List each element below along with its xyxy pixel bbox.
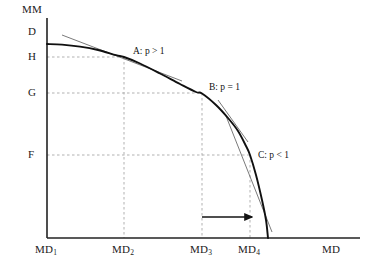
- x-tick-subscript: 3: [208, 248, 212, 257]
- x-tick-base: MD: [238, 243, 256, 255]
- point-label-b: B: p = 1: [209, 82, 240, 92]
- ppf-diagram: MM MD DHGF MD1MD2MD3MD4 A: p > 1B: p = 1…: [0, 0, 370, 270]
- x-tick-base: MD: [35, 243, 53, 255]
- x-tick-base: MD: [190, 243, 208, 255]
- y-tick-label-f: F: [28, 148, 34, 160]
- plot-canvas: [0, 0, 370, 270]
- x-tick-label-md4: MD4: [238, 243, 260, 255]
- transformation-curve: [47, 44, 268, 238]
- x-tick-subscript: 4: [256, 248, 260, 257]
- x-tick-base: MD: [112, 243, 130, 255]
- tangent-at-B: [218, 100, 248, 142]
- y-tick-label-g: G: [28, 86, 36, 98]
- x-tick-label-md3: MD3: [190, 243, 212, 255]
- x-tick-subscript: 1: [53, 248, 57, 257]
- x-tick-label-md2: MD2: [112, 243, 134, 255]
- x-axis-title: MD: [322, 243, 340, 255]
- x-tick-label-md1: MD1: [35, 243, 57, 255]
- point-label-c: C: p < 1: [258, 150, 289, 160]
- x-tick-subscript: 2: [130, 248, 134, 257]
- tangent-at-A: [62, 35, 182, 81]
- axes: [47, 18, 360, 238]
- y-axis-title: MM: [22, 3, 42, 15]
- point-label-a: A: p > 1: [133, 46, 164, 56]
- y-tick-label-d: D: [28, 25, 36, 37]
- y-tick-label-h: H: [28, 50, 36, 62]
